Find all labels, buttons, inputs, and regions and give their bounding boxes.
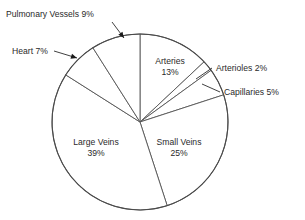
pie-chart-page: Arteries13%Arterioles 2%Capillaries 5%Sm… [0,0,305,220]
callout-label-pulmonary-vessels: Pulmonary Vessels 9% [6,9,94,19]
pie-slices [52,34,228,210]
callout-label-arterioles: Arterioles 2% [216,63,267,73]
slice-label-name-small-veins: Small Veins [157,137,202,147]
arrow-head-heart [71,54,78,59]
callout-label-capillaries: Capillaries 5% [224,87,279,97]
slice-label-value-large-veins: 39% [87,148,105,158]
slice-label-value-small-veins: 25% [170,148,188,158]
blood-volume-distribution-pie-chart: Arteries13%Arterioles 2%Capillaries 5%Sm… [0,0,305,220]
slice-label-name-arteries: Arteries [155,56,185,66]
callout-label-heart: Heart 7% [12,46,48,56]
slice-label-name-large-veins: Large Veins [73,137,118,147]
slice-label-value-arteries: 13% [161,67,179,77]
